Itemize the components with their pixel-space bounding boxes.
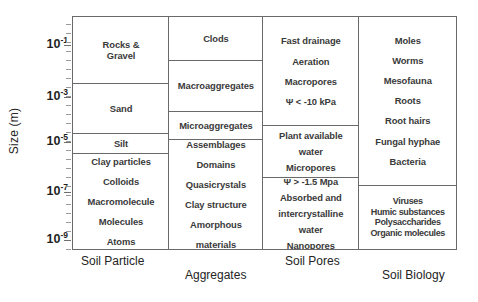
cell-text-line: Colloids	[103, 176, 139, 187]
cell-text-line: Sand	[110, 103, 133, 114]
y-axis-tick-mark	[66, 24, 71, 25]
y-axis-major-tick-mark	[64, 97, 71, 98]
y-axis-major-tick-mark	[64, 45, 71, 46]
category-label-aggregates: Aggregates	[185, 268, 246, 282]
y-axis-tick-mark	[66, 213, 71, 214]
column-aggregates: ClodsMacroaggregatesMicroaggregatesAssem…	[168, 16, 263, 250]
cell-text-line: Ψ > -1.5 Mpa	[284, 178, 339, 187]
y-axis-tick-mark	[66, 132, 71, 133]
column-soil-biology: MolesWormsMesofaunaRootsRoot hairsFungal…	[358, 16, 457, 250]
y-axis-title: Size (m)	[7, 81, 21, 181]
y-axis-tick-mark	[66, 159, 71, 160]
cell-text-line: Roots	[395, 95, 421, 106]
cell-text-line: materials	[196, 239, 236, 249]
cell-text-line: Atoms	[107, 236, 136, 247]
y-axis-tick-mark	[66, 123, 71, 124]
cell-text-line: Clay particles	[91, 156, 151, 167]
y-axis-tick-mark	[66, 186, 71, 187]
cell-text-line: Absorbed and	[280, 192, 342, 203]
column-soil-pores: Fast drainageAerationMacroporesΨ < -10 k…	[262, 16, 360, 250]
cell-text-line: Polysaccharides	[375, 217, 441, 228]
y-axis-tick-mark	[66, 168, 71, 169]
column-soil-particle: Rocks &GravelSandSiltClay particlesCollo…	[72, 16, 170, 250]
y-axis-tick-mark	[66, 69, 71, 70]
cell-text-line: Quasicrystals	[186, 179, 246, 190]
y-axis-major-tick-mark	[64, 192, 71, 193]
cell-text-line: Fungal hyphae	[375, 136, 440, 147]
diagram-cell: Silt	[73, 134, 169, 155]
y-axis-tick-mark	[66, 177, 71, 178]
y-axis-major-tick-mark	[64, 240, 71, 241]
diagram-cell: AssemblagesDomainsQuasicrystalsClay stru…	[169, 140, 262, 249]
cell-text-line: Gravel	[107, 50, 136, 61]
diagram-cell: VirusesHumic substancesPolysaccharidesOr…	[359, 186, 456, 249]
diagram-cell: Plant availablewaterMicropores	[263, 126, 359, 178]
cell-text-line: Plant available	[279, 130, 343, 141]
cell-text-line: Silt	[114, 138, 128, 149]
y-axis-tick-mark	[66, 33, 71, 34]
cell-text-line: Mesofauna	[384, 75, 432, 86]
cell-text-line: Bacteria	[390, 156, 426, 167]
y-axis-tick-mark	[66, 105, 71, 106]
diagram-cell: Clay particlesColloidsMacromoleculeMolec…	[73, 154, 169, 249]
cell-text-line: Fast drainage	[281, 35, 341, 46]
category-label-soil-particle: Soil Particle	[81, 254, 144, 268]
diagram-cell: Macroaggregates	[169, 61, 262, 112]
cell-text-line: Clods	[203, 33, 229, 44]
cell-text-line: Root hairs	[385, 115, 430, 126]
y-axis-tick-label: 10-9	[24, 232, 68, 246]
cell-text-line: Organic molecules	[370, 228, 445, 239]
y-axis-tick-mark	[66, 222, 71, 223]
cell-text-line: Macroaggregates	[178, 80, 254, 91]
y-axis-major-tick-mark	[64, 142, 71, 143]
y-axis-tick-mark	[66, 87, 71, 88]
diagram-cell: Ψ > -1.5 MpaAbsorbed andintercrystalline…	[263, 178, 359, 249]
cell-text-line: Microaggregates	[179, 120, 253, 131]
diagram-cell: MolesWormsMesofaunaRootsRoot hairsFungal…	[359, 17, 456, 186]
cell-text-line: Moles	[395, 35, 421, 46]
cell-text-line: Domains	[196, 159, 235, 170]
y-axis-tick-label: 10-7	[24, 184, 68, 198]
diagram-cell: Fast drainageAerationMacroporesΨ < -10 k…	[263, 17, 359, 126]
cell-text-line: Rocks &	[103, 39, 140, 50]
cell-text-line: Macromolecule	[88, 196, 155, 207]
cell-text-line: Micropores	[286, 162, 336, 173]
cell-text-line: Molecules	[99, 216, 143, 227]
y-axis-tick-mark	[66, 60, 71, 61]
cell-text-line: Assemblages	[186, 140, 245, 150]
y-axis-tick-mark	[66, 150, 71, 151]
y-axis-tick-mark	[66, 231, 71, 232]
y-axis-tick-mark	[66, 51, 71, 52]
cell-text-line: Nanopores	[287, 240, 335, 249]
cell-text-line: Ψ < -10 kPa	[286, 96, 336, 107]
y-axis-tick-label: 10-3	[24, 89, 68, 103]
soil-size-diagram: Rocks &GravelSandSiltClay particlesCollo…	[72, 16, 458, 250]
cell-text-line: Humic substances	[371, 207, 445, 218]
diagram-cell: Sand	[73, 84, 169, 133]
diagram-cell: Clods	[169, 17, 262, 61]
y-axis-tick-label: 10-1	[24, 37, 68, 51]
category-label-soil-biology: Soil Biology	[382, 268, 445, 282]
y-axis-tick-mark	[66, 204, 71, 205]
cell-text-line: intercrystalline	[278, 208, 343, 219]
y-axis-tick-mark	[66, 42, 71, 43]
cell-text-line: Viruses	[393, 196, 423, 207]
y-axis-tick-mark	[66, 249, 71, 250]
y-axis-tick-mark	[66, 114, 71, 115]
y-axis-tick-mark	[66, 195, 71, 196]
cell-text-line: Macropores	[285, 76, 337, 87]
category-label-soil-pores: Soil Pores	[285, 254, 340, 268]
diagram-cell: Rocks &Gravel	[73, 17, 169, 84]
cell-text-line: water	[299, 146, 323, 157]
cell-text-line: Worms	[392, 55, 423, 66]
diagram-cell: Microaggregates	[169, 112, 262, 141]
cell-text-line: water	[299, 224, 323, 235]
cell-text-line: Clay structure	[185, 199, 247, 210]
y-axis-tick-label: 10-5	[24, 134, 68, 148]
y-axis-tick-mark	[66, 78, 71, 79]
cell-text-line: Amorphous	[190, 219, 242, 230]
cell-text-line: Aeration	[292, 56, 329, 67]
